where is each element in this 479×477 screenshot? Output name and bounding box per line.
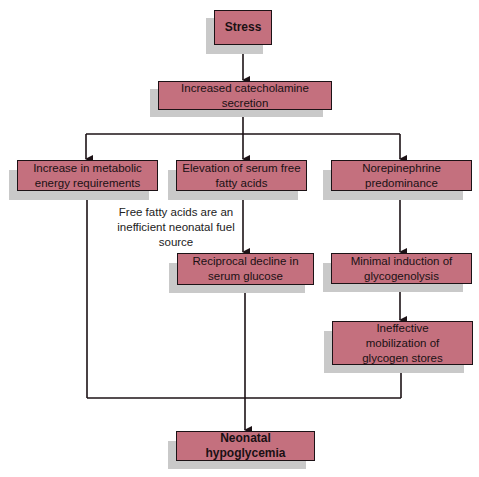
- node-ffa: Elevation of serum free fatty acids: [176, 160, 307, 191]
- node-catecholamine: Increased catecholamine secretion: [158, 81, 332, 110]
- node-hypoglycemia: Neonatal hypoglycemia: [176, 431, 315, 461]
- node-glycogenolysis: Minimal induction of glycogenolysis: [331, 253, 472, 284]
- node-stress: Stress: [214, 10, 272, 45]
- node-metabolic: Increase in metabolic energy requirement…: [17, 160, 158, 191]
- annotation-note: Free fatty acids are an inefficient neon…: [112, 205, 240, 250]
- node-mobilization: Ineffective mobilization of glycogen sto…: [332, 321, 473, 365]
- node-norepinephrine: Norepinephrine predominance: [331, 160, 472, 191]
- node-glucose: Reciprocal decline in serum glucose: [177, 253, 314, 285]
